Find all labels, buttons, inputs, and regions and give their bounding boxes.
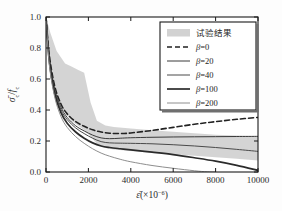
legend-swatch-band [167,29,190,37]
x-tick-label-0: 0 [44,175,49,185]
y-tick-label-0.2: 0.2 [30,136,41,146]
legend-label-β40: β=40 [195,70,214,80]
chart-canvas: 02000400060008000100000.00.20.40.60.81.0… [0,0,282,211]
y-tick-label-0.4: 0.4 [30,105,42,115]
y-tick-label-1.0: 1.0 [30,12,42,22]
x-axis-title: ε̄(×10−6) [136,189,168,202]
x-tick-label-4000: 4000 [122,175,141,185]
y-tick-label-0.8: 0.8 [30,43,42,53]
legend-label-β200: β=200 [195,98,218,108]
legend-shadow-right [256,24,259,112]
legend-label-β100: β=100 [195,84,218,94]
x-tick-label-8000: 8000 [207,175,226,185]
legend-label-experimental: 试验结果 [196,28,232,38]
y-tick-label-0.6: 0.6 [30,74,42,84]
legend: 试验结果β=0β=20β=40β=100β=200 [160,22,259,113]
y-tick-label-0.0: 0.0 [30,167,42,177]
y-axis-title: σ̄c/fc [7,87,20,103]
legend-shadow-bottom [162,110,258,113]
legend-label-β20: β=20 [195,56,214,66]
x-tick-label-6000: 6000 [164,175,183,185]
legend-label-β0: β=0 [195,42,209,52]
x-tick-label-10000: 10000 [247,175,270,185]
chart-figure: 02000400060008000100000.00.20.40.60.81.0… [0,0,282,211]
x-tick-label-2000: 2000 [79,175,98,185]
